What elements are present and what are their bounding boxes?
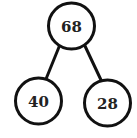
number-bond-diagram: 68 40 28 bbox=[0, 0, 137, 138]
part-node-left: 40 bbox=[16, 78, 62, 124]
connector-right bbox=[85, 46, 101, 80]
part-label-right: 28 bbox=[97, 95, 118, 113]
whole-node: 68 bbox=[49, 3, 95, 49]
part-node-right: 28 bbox=[85, 80, 131, 126]
part-label-left: 40 bbox=[28, 93, 49, 111]
connector-left bbox=[46, 47, 59, 79]
whole-label: 68 bbox=[61, 18, 82, 36]
